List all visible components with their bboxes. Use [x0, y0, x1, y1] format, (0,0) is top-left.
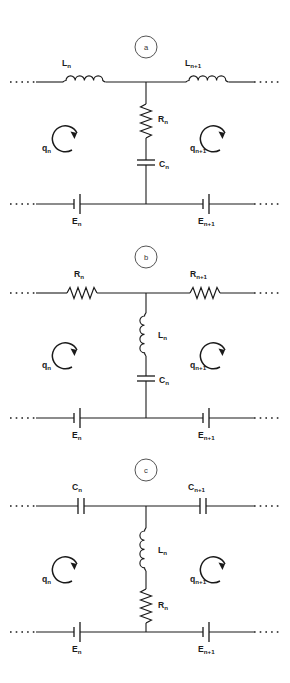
- panel-a-loop-arrow-left: [52, 126, 77, 152]
- panel-b-inductor: [140, 313, 146, 356]
- panel-c: c: [10, 459, 281, 655]
- panel-a-label-loop-right: qn+1: [190, 143, 207, 154]
- panel-c-marker-label: c: [144, 466, 148, 475]
- panel-a-label-series-right: Ln+1: [185, 58, 202, 69]
- panel-c-label-series-left: Cn: [72, 482, 82, 493]
- panel-c-capacitor-right: [200, 498, 206, 514]
- panel-b-emf-left: [74, 408, 80, 428]
- panel-b-label-series-left: Rn: [74, 269, 84, 280]
- panel-b-label-shunt-upper: Ln: [158, 330, 167, 341]
- panel-b-marker-label: b: [144, 253, 148, 262]
- panel-c-capacitor-left: [78, 498, 84, 514]
- panel-a-inductor-right: [186, 76, 229, 82]
- panel-c-resistor: [141, 589, 152, 623]
- panel-a-capacitor: [137, 160, 155, 165]
- panel-a-marker: a: [135, 36, 157, 58]
- panel-c-label-loop-left: qn: [42, 574, 51, 585]
- panel-c-loop-arrow-left: [52, 557, 77, 583]
- panel-c-label-emf-left: En: [72, 644, 82, 655]
- panel-a-emf-left: [74, 194, 80, 214]
- panel-c-label-series-right: Cn+1: [188, 482, 206, 493]
- panel-b-label-loop-left: qn: [42, 360, 51, 371]
- panel-b-label-emf-left: En: [72, 430, 82, 441]
- panel-c-emf-left: [74, 622, 80, 642]
- panel-a-label-loop-left: qn: [42, 143, 51, 154]
- panel-a-label-shunt-lower: Cn: [159, 159, 169, 170]
- panel-b-resistor-left: [67, 288, 97, 299]
- panel-a: a: [10, 36, 281, 227]
- panel-c-marker: c: [135, 459, 157, 481]
- panel-b-capacitor: [137, 376, 155, 381]
- panel-b-emf-right: [203, 408, 209, 428]
- panel-b-resistor-right: [190, 288, 220, 299]
- panel-a-label-series-left: Ln: [62, 58, 71, 69]
- panel-a-inductor-left: [63, 76, 106, 82]
- panel-c-label-shunt-lower: Rn: [158, 600, 168, 611]
- panel-a-label-emf-right: En+1: [198, 216, 215, 227]
- panel-b-label-emf-right: En+1: [198, 430, 215, 441]
- circuit-figure: a: [0, 0, 290, 683]
- panel-b-loop-arrow-left: [52, 343, 77, 369]
- panel-a-emf-right: [203, 194, 209, 214]
- panel-b-label-series-right: Rn+1: [190, 269, 208, 280]
- panel-c-label-emf-right: En+1: [198, 644, 215, 655]
- panel-c-emf-right: [203, 622, 209, 642]
- panel-b-marker: b: [135, 246, 157, 268]
- panel-b: b: [10, 246, 281, 441]
- panel-c-label-shunt-upper: Ln: [158, 545, 167, 556]
- panel-a-label-shunt-upper: Rn: [158, 114, 168, 125]
- panel-a-label-emf-left: En: [72, 216, 82, 227]
- panel-b-label-loop-right: qn+1: [190, 360, 207, 371]
- panel-b-label-shunt-lower: Cn: [159, 375, 169, 386]
- panel-c-inductor: [140, 528, 146, 571]
- panel-c-label-loop-right: qn+1: [190, 574, 207, 585]
- panel-a-resistor: [141, 104, 152, 138]
